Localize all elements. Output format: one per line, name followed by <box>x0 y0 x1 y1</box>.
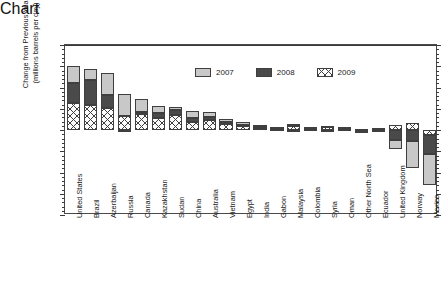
y-tick-major <box>436 173 441 174</box>
legend-item-2009: 2009 <box>317 68 356 77</box>
bar-segment-2008 <box>219 122 232 124</box>
legend-label-2007: 2007 <box>216 68 234 77</box>
x-tick-label: Egypt <box>245 199 254 218</box>
y-tick-minor <box>436 71 439 72</box>
bar-segment-2008 <box>203 117 216 120</box>
bar-segment-2008 <box>389 130 402 140</box>
y-tick-minor <box>62 143 65 144</box>
y-tick-minor <box>62 211 65 212</box>
y-tick-minor <box>436 54 439 55</box>
y-axis-title: Change from Previous Year (millions barr… <box>21 0 43 131</box>
legend-label-2009: 2009 <box>338 68 356 77</box>
bar-segment-2009 <box>118 116 131 130</box>
y-tick-minor <box>62 126 65 127</box>
x-tick-label: Norway <box>415 193 424 218</box>
y-tick-major <box>436 109 441 110</box>
bar-segment-2008 <box>406 130 419 141</box>
bar-segment-2007 <box>135 99 148 112</box>
y-tick-minor <box>436 49 439 50</box>
x-tick-label: Canada <box>143 192 152 218</box>
x-tick-label: Gabon <box>279 196 288 218</box>
y-tick-minor <box>436 134 439 135</box>
bar-segment-2008 <box>423 135 436 154</box>
bar-segment-2009 <box>406 123 419 130</box>
bar-segment-2008 <box>186 118 199 121</box>
y-tick-minor <box>62 181 65 182</box>
bar-column[interactable] <box>169 45 182 213</box>
y-tick-minor <box>62 147 65 148</box>
y-tick-minor <box>62 100 65 101</box>
bar-segment-2009 <box>135 114 148 130</box>
bar-segment-2007 <box>287 130 300 132</box>
y-tick-minor <box>436 62 439 63</box>
y-tick-minor <box>62 92 65 93</box>
y-tick-minor <box>436 79 439 80</box>
bar-segment-2008 <box>118 130 131 132</box>
y-tick-minor <box>436 83 439 84</box>
y-tick-minor <box>62 79 65 80</box>
y-tick-minor <box>62 198 65 199</box>
y-tick-minor <box>436 164 439 165</box>
bar-column[interactable] <box>406 45 419 213</box>
y-tick-minor <box>436 117 439 118</box>
bar-segment-2009 <box>338 129 351 131</box>
x-tick-label: India <box>262 202 271 218</box>
y-tick-major <box>60 109 65 110</box>
bar-segment-2009 <box>67 103 80 130</box>
y-tick-minor <box>436 190 439 191</box>
y-tick-major <box>60 151 65 152</box>
x-tick-label: Colombia <box>313 187 322 218</box>
bar-column[interactable] <box>135 45 148 213</box>
y-tick-minor <box>62 49 65 50</box>
bar-segment-2008 <box>338 127 351 129</box>
x-tick-label: Ecuador <box>381 190 390 218</box>
bar-segment-2007 <box>253 125 266 127</box>
y-tick-major <box>436 130 441 131</box>
y-tick-minor <box>62 58 65 59</box>
y-tick-minor <box>436 96 439 97</box>
bar-segment-2009 <box>186 122 199 131</box>
bar-segment-2009 <box>219 124 232 130</box>
y-tick-minor <box>436 92 439 93</box>
legend-swatch-2008 <box>256 68 272 77</box>
legend-swatch-2007 <box>195 68 211 77</box>
legend-item-2008: 2008 <box>256 68 295 77</box>
bar-segment-2007 <box>236 122 249 125</box>
bar-segment-2009 <box>169 115 182 130</box>
x-tick-label: Azerbaijan <box>109 183 118 218</box>
x-tick-label: Mexico <box>432 195 441 218</box>
bar-column[interactable] <box>118 45 131 213</box>
x-tick-label: Kazakhstan <box>160 179 169 218</box>
y-tick-minor <box>62 134 65 135</box>
x-tick-label: Malaysia <box>296 189 305 218</box>
bar-segment-2008 <box>67 83 80 103</box>
bar-segment-2007 <box>423 154 436 185</box>
x-tick-label: United States <box>75 174 84 218</box>
x-tick-label: Australia <box>211 189 220 218</box>
y-axis-title-line2: (millions barrels per day) <box>31 0 41 131</box>
legend-swatch-2009 <box>317 68 333 77</box>
y-tick-minor <box>436 58 439 59</box>
y-tick-minor <box>436 160 439 161</box>
x-tick-label: Other North Sea <box>364 164 373 218</box>
legend-label-2008: 2008 <box>277 68 295 77</box>
x-tick-label: Brazil <box>92 200 101 218</box>
bar-column[interactable] <box>423 45 436 213</box>
y-tick-minor <box>436 177 439 178</box>
bar-segment-2008 <box>236 125 249 127</box>
x-tick-label: Syria <box>330 201 339 218</box>
y-tick-minor <box>436 147 439 148</box>
y-tick-major <box>436 45 441 46</box>
bar-segment-2007 <box>67 66 80 83</box>
bar-column[interactable] <box>84 45 97 213</box>
x-tick-label: Vietnam <box>228 191 237 218</box>
chart-figure: Change from Previous Year (millions barr… <box>0 18 445 291</box>
x-tick-label: Oman <box>347 198 356 218</box>
y-tick-minor <box>436 156 439 157</box>
y-tick-minor <box>436 126 439 127</box>
y-tick-minor <box>436 105 439 106</box>
y-tick-minor <box>62 96 65 97</box>
bar-segment-2008 <box>84 80 97 104</box>
bar-column[interactable] <box>372 45 385 213</box>
y-tick-major <box>436 151 441 152</box>
